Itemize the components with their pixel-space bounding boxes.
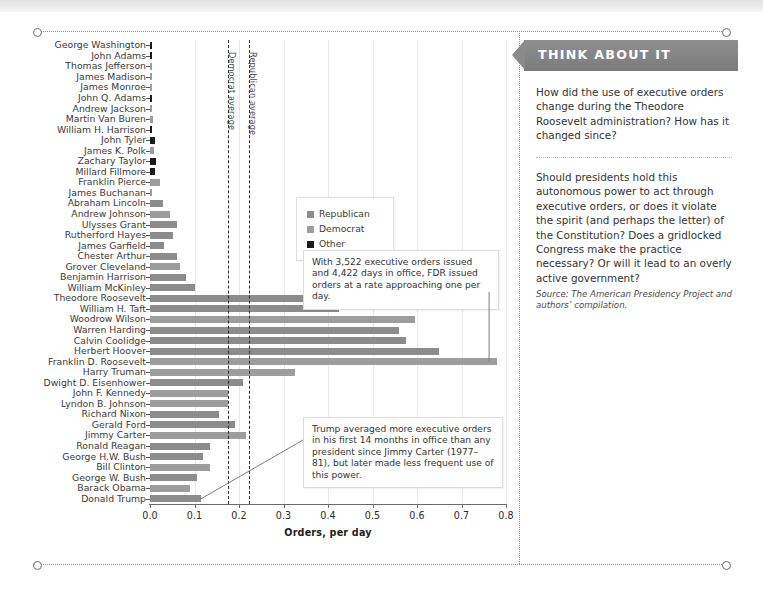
y-axis-category-label: Ulysses Grant: [82, 220, 146, 230]
y-axis-category-label: Andrew Johnson: [71, 209, 146, 219]
y-axis-category-label: Herbert Hoover: [74, 346, 146, 356]
y-axis-category-label: Bill Clinton: [96, 462, 146, 472]
x-axis-tick-label: 0.3: [276, 510, 291, 521]
chart-bar: [150, 73, 152, 80]
y-axis-category-label: John Adams: [91, 51, 146, 61]
sidebar-dotted-separator: [536, 157, 732, 159]
chart-bar: [150, 168, 155, 175]
y-axis-category-label: Franklin D. Roosevelt: [48, 357, 146, 367]
page-header-band: [0, 0, 763, 12]
chart-bar: [150, 464, 210, 471]
chart-bar: [150, 337, 406, 344]
bottom-right-rule-cap: [722, 561, 731, 570]
y-axis-category-label: Ronald Reagan: [76, 441, 146, 451]
chart-bar: [150, 400, 228, 407]
x-axis-tick-label: 0.7: [454, 510, 469, 521]
y-axis-category-label: Dwight D. Eisenhower: [44, 378, 146, 388]
top-dotted-rule: [36, 31, 726, 33]
trump-annotation-callout: Trump averaged more executive orders in …: [303, 417, 503, 488]
y-axis-category-label: Warren Harding: [73, 325, 146, 335]
y-axis-category-label: Benjamin Harrison: [60, 272, 146, 282]
top-right-rule-cap: [722, 28, 731, 37]
chart-bar: [150, 432, 246, 439]
y-axis-category-label: George W. Bush: [72, 473, 146, 483]
x-axis-tick: [150, 504, 151, 508]
y-axis-category-label: Calvin Coolidge: [74, 336, 146, 346]
y-axis-category-label: Harry Truman: [83, 367, 146, 377]
x-axis-tick-label: 0.0: [142, 510, 157, 521]
x-axis-tick-label: 0.1: [187, 510, 202, 521]
y-axis-category-label: Zachary Taylor: [78, 156, 146, 166]
x-axis-title: Orders, per day: [150, 527, 506, 538]
chart-bar: [150, 453, 203, 460]
y-axis-category-label: Rutherford Hayes: [65, 230, 146, 240]
sidebar-paragraph-1: How did the use of executive orders chan…: [536, 85, 732, 143]
y-axis-category-label: Franklin Pierce: [78, 177, 146, 187]
y-axis-category-label: William H. Harrison: [57, 125, 146, 135]
y-axis-category-label: Jimmy Carter: [85, 430, 146, 440]
x-axis-tick: [239, 504, 240, 508]
legend-label: Other: [319, 239, 345, 249]
reference-line-label: Democrat average: [227, 52, 237, 130]
chart-bar: [150, 390, 228, 397]
chart-bar: [150, 242, 164, 249]
chart-bar: [150, 95, 152, 102]
chart-bar: [150, 411, 219, 418]
legend-swatch: [307, 241, 314, 248]
y-axis-category-label: Abraham Lincoln: [68, 198, 146, 208]
legend-label: Democrat: [319, 224, 364, 234]
chart-bar: [150, 263, 180, 270]
chart-bar: [150, 421, 235, 428]
chart-bar: [150, 211, 170, 218]
y-axis-category-label: Gerald Ford: [92, 420, 146, 430]
chart-bar: [150, 116, 153, 123]
y-axis-category-label: Lyndon B. Johnson: [61, 399, 146, 409]
y-axis-category-label: William H. Taft: [80, 304, 146, 314]
chart-bar: [150, 42, 152, 49]
y-axis-category-label: Barack Obama: [77, 483, 146, 493]
page-root: George WashingtonJohn AdamsThomas Jeffer…: [0, 0, 763, 589]
chart-bar: [150, 443, 210, 450]
x-axis-tick-label: 0.2: [231, 510, 246, 521]
y-axis-category-label: James Garfield: [78, 241, 146, 251]
sidebar-tab-arrow-icon: [512, 40, 525, 70]
chart-bar: [150, 379, 243, 386]
y-axis-category-label: John F. Kennedy: [73, 388, 146, 398]
y-axis-category-label: Millard Fillmore: [76, 167, 147, 177]
chart-bar: [150, 284, 195, 291]
y-axis-category-label: Woodrow Wilson: [70, 314, 146, 324]
chart-bar: [150, 221, 177, 228]
chart-bar: [150, 105, 152, 112]
x-axis-tick-label: 0.4: [320, 510, 335, 521]
y-axis-category-label: Chester Arthur: [77, 251, 146, 261]
y-axis-category-label: Andrew Jackson: [73, 104, 146, 114]
chart-bar: [150, 137, 155, 144]
x-axis-tick: [284, 504, 285, 508]
legend-swatch: [307, 226, 314, 233]
y-axis-category-label: Martin Van Buren: [66, 114, 146, 124]
bottom-left-rule-cap: [33, 561, 42, 570]
y-axis-category-label: George Washington: [55, 40, 146, 50]
chart-bar: [150, 327, 399, 334]
top-left-rule-cap: [33, 28, 42, 37]
x-axis-tick: [506, 504, 507, 508]
chart-bar: [150, 84, 152, 91]
chart-bar: [150, 316, 415, 323]
y-axis-category-label: William McKinley: [67, 283, 146, 293]
x-axis-tick: [328, 504, 329, 508]
chart-bar: [150, 232, 173, 239]
legend-swatch: [307, 211, 314, 218]
column-divider: [519, 31, 521, 564]
y-axis-category-label: Richard Nixon: [81, 409, 146, 419]
y-axis-category-label: John Q. Adams: [78, 93, 146, 103]
y-axis-category-label: James Buchanan: [69, 188, 146, 198]
y-axis-category-label: Donald Trump: [81, 494, 146, 504]
x-axis-tick: [417, 504, 418, 508]
chart-bar: [150, 158, 156, 165]
chart-bar: [150, 358, 497, 365]
sidebar-source-note: Source: The American Presidency Project …: [536, 289, 736, 312]
chart-bar: [150, 147, 154, 154]
chart-bar: [150, 126, 152, 133]
x-axis-tick: [462, 504, 463, 508]
y-axis-category-label: James K. Polk: [84, 146, 146, 156]
